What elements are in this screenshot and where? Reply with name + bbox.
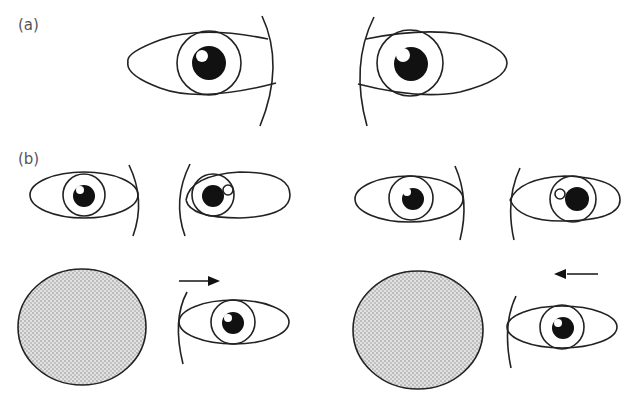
panel-b-top-right-pair [355, 166, 620, 240]
stimulus-disc [18, 269, 146, 385]
arrow-left-icon [554, 269, 566, 279]
stimulus-disc [353, 271, 483, 389]
panel-b-top-left-pair [30, 164, 290, 236]
pupil-icon [192, 46, 226, 80]
panel-b-bottom-right [353, 269, 617, 389]
panel-a-right-eye [358, 17, 507, 126]
panel-b-bottom-left [18, 269, 289, 385]
arrow-right-icon [208, 276, 220, 286]
diagram-canvas [0, 0, 638, 409]
panel-a-left-eye [128, 16, 276, 126]
